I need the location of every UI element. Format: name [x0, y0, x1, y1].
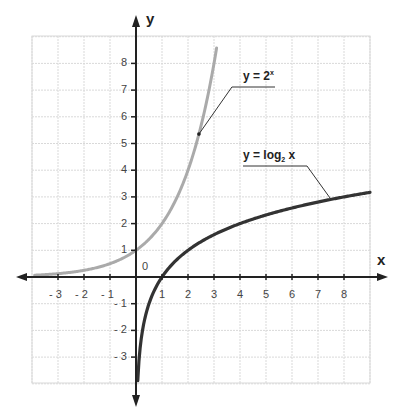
exp-leader-line: [199, 87, 275, 134]
y-axis-down-arrow-icon: [132, 395, 140, 407]
log-curve: [138, 192, 370, 380]
y-tick-label: - 3: [114, 350, 127, 362]
x-axis-left-arrow-icon: [16, 273, 27, 281]
plot-area: [0, 0, 403, 415]
x-tick-label: 8: [341, 288, 347, 300]
x-tick-label: 1: [159, 288, 165, 300]
x-tick-label: 3: [211, 288, 217, 300]
grid-border: [32, 36, 370, 383]
y-tick-label: 1: [121, 243, 127, 255]
log-function-label: y = log2 x: [243, 148, 295, 163]
x-axis-right-arrow-icon: [377, 273, 388, 281]
exp-label-main: y = 2: [243, 69, 270, 83]
y-tick-label: 2: [121, 217, 127, 229]
x-tick-label: 7: [315, 288, 321, 300]
y-tick-label: 8: [121, 56, 127, 68]
x-tick-label: - 3: [49, 288, 62, 300]
log-label-tail: x: [285, 148, 295, 162]
log-label-main: y = log: [243, 148, 281, 162]
function-graph: y x 0 y = 2x y = log2 x - 3- 2- 11234567…: [0, 0, 403, 415]
y-tick-label: 5: [121, 137, 127, 149]
x-tick-label: 6: [289, 288, 295, 300]
y-tick-label: - 2: [114, 323, 127, 335]
x-tick-label: - 2: [75, 288, 88, 300]
origin-label: 0: [142, 260, 148, 272]
exp-label-point: [197, 132, 201, 136]
y-tick-label: 6: [121, 110, 127, 122]
x-tick-label: 4: [237, 288, 243, 300]
y-axis-title: y: [146, 10, 154, 27]
y-tick-label: 4: [121, 163, 127, 175]
y-tick-label: 7: [121, 83, 127, 95]
x-axis-title: x: [377, 251, 385, 268]
y-tick-label: - 1: [114, 297, 127, 309]
y-axis-up-arrow-icon: [132, 15, 140, 27]
x-tick-label: 2: [185, 288, 191, 300]
x-tick-label: - 1: [101, 288, 114, 300]
y-tick-label: 3: [121, 190, 127, 202]
exp-label-exponent: x: [270, 69, 274, 76]
x-tick-label: 5: [263, 288, 269, 300]
exp-function-label: y = 2x: [243, 69, 274, 83]
